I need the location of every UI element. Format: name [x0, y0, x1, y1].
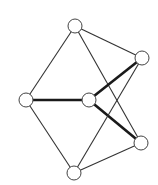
- node-center: [82, 93, 96, 107]
- edge-center-lower-right: [89, 100, 141, 143]
- edge-lower-right-bottom: [74, 143, 141, 173]
- edge-top-left: [26, 26, 75, 100]
- edge-left-bottom: [26, 100, 74, 173]
- node-upper-right: [135, 51, 149, 65]
- node-bottom: [67, 166, 81, 180]
- edge-upper-right-bottom: [74, 58, 142, 173]
- edge-top-upper-right: [75, 26, 142, 58]
- node-top: [68, 19, 82, 33]
- node-left: [19, 93, 33, 107]
- graph-diagram: [0, 0, 158, 185]
- node-lower-right: [134, 136, 148, 150]
